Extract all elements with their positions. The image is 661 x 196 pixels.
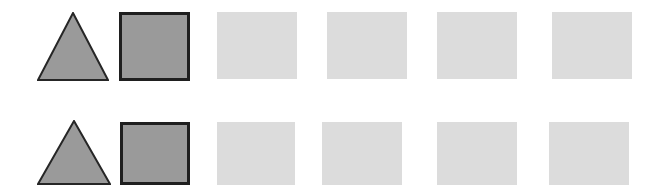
- square-plain-shape: [217, 122, 295, 185]
- square-outlined-shape: [120, 122, 190, 185]
- shape-cell: [119, 12, 190, 81]
- shape-cell: [322, 122, 402, 185]
- triangle-shape: [37, 12, 109, 81]
- shape-cell: [37, 12, 109, 81]
- square-plain-shape: [549, 122, 629, 185]
- shape-cell: [552, 12, 632, 79]
- square-plain-shape: [217, 12, 297, 79]
- shape-cell: [120, 122, 190, 185]
- shape-cell: [217, 12, 297, 79]
- shape-cell: [327, 12, 407, 79]
- shape-cell: [437, 12, 517, 79]
- square-plain-shape: [322, 122, 402, 185]
- square-plain-shape: [552, 12, 632, 79]
- square-outlined-shape: [119, 12, 190, 81]
- triangle-shape: [37, 120, 111, 185]
- triangle-path: [38, 13, 108, 80]
- shape-cell: [437, 122, 517, 185]
- shape-grid-canvas: [0, 0, 661, 196]
- shape-cell: [549, 122, 629, 185]
- shape-cell: [217, 122, 295, 185]
- square-plain-shape: [437, 122, 517, 185]
- shape-cell: [37, 120, 111, 185]
- square-plain-shape: [437, 12, 517, 79]
- square-plain-shape: [327, 12, 407, 79]
- triangle-path: [38, 121, 110, 184]
